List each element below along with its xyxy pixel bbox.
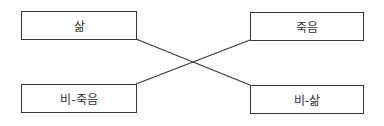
node-death: 죽음 xyxy=(250,12,364,41)
node-non-life: 비-삶 xyxy=(250,85,364,114)
node-death-label: 죽음 xyxy=(296,18,318,35)
node-non-life-label: 비-삶 xyxy=(294,91,320,108)
edge-non-death-to-death xyxy=(136,40,250,84)
node-non-death: 비-죽음 xyxy=(21,84,137,113)
diagram-canvas: 삶 죽음 비-죽음 비-삶 xyxy=(0,0,384,126)
node-non-death-label: 비-죽음 xyxy=(60,90,97,107)
node-life: 삶 xyxy=(21,11,137,40)
node-life-label: 삶 xyxy=(74,17,85,34)
